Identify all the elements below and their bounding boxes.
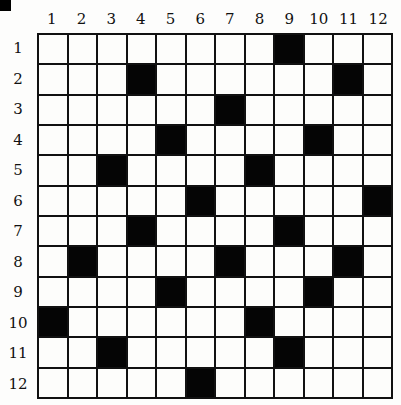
- grid-cell-empty[interactable]: [98, 126, 126, 154]
- grid-cell-empty[interactable]: [128, 187, 156, 215]
- grid-cell-filled[interactable]: [216, 247, 244, 275]
- grid-cell-empty[interactable]: [275, 65, 303, 93]
- grid-cell-empty[interactable]: [187, 65, 215, 93]
- grid-cell-empty[interactable]: [216, 126, 244, 154]
- grid-cell-empty[interactable]: [216, 156, 244, 184]
- grid-cell-empty[interactable]: [69, 35, 97, 63]
- grid-cell-empty[interactable]: [275, 96, 303, 124]
- grid-cell-empty[interactable]: [334, 338, 362, 366]
- grid-cell-empty[interactable]: [364, 65, 392, 93]
- grid-cell-empty[interactable]: [128, 35, 156, 63]
- grid-cell-empty[interactable]: [39, 278, 67, 306]
- grid-cell-empty[interactable]: [364, 308, 392, 336]
- grid-cell-filled[interactable]: [98, 338, 126, 366]
- grid-cell-filled[interactable]: [157, 278, 185, 306]
- grid-cell-filled[interactable]: [187, 187, 215, 215]
- grid-cell-empty[interactable]: [69, 369, 97, 397]
- grid-cell-empty[interactable]: [216, 65, 244, 93]
- grid-cell-filled[interactable]: [305, 126, 333, 154]
- grid-cell-empty[interactable]: [334, 217, 362, 245]
- grid-cell-empty[interactable]: [246, 338, 274, 366]
- grid-cell-empty[interactable]: [157, 338, 185, 366]
- grid-cell-filled[interactable]: [98, 156, 126, 184]
- grid-cell-empty[interactable]: [39, 156, 67, 184]
- grid-cell-empty[interactable]: [364, 247, 392, 275]
- grid-cell-empty[interactable]: [69, 187, 97, 215]
- grid-cell-empty[interactable]: [246, 217, 274, 245]
- grid-cell-empty[interactable]: [69, 338, 97, 366]
- grid-cell-empty[interactable]: [187, 156, 215, 184]
- grid-cell-empty[interactable]: [128, 126, 156, 154]
- grid-cell-empty[interactable]: [305, 156, 333, 184]
- grid-cell-empty[interactable]: [275, 126, 303, 154]
- grid-cell-empty[interactable]: [275, 369, 303, 397]
- grid-cell-filled[interactable]: [69, 247, 97, 275]
- grid-cell-empty[interactable]: [128, 247, 156, 275]
- grid-cell-empty[interactable]: [305, 369, 333, 397]
- grid-cell-filled[interactable]: [157, 126, 185, 154]
- grid-cell-empty[interactable]: [305, 338, 333, 366]
- grid-cell-empty[interactable]: [334, 278, 362, 306]
- grid-cell-empty[interactable]: [305, 217, 333, 245]
- grid-cell-empty[interactable]: [39, 369, 67, 397]
- grid-cell-empty[interactable]: [364, 338, 392, 366]
- grid-cell-empty[interactable]: [187, 35, 215, 63]
- grid-cell-empty[interactable]: [216, 369, 244, 397]
- grid-cell-empty[interactable]: [157, 247, 185, 275]
- grid-cell-empty[interactable]: [246, 187, 274, 215]
- grid-cell-filled[interactable]: [334, 247, 362, 275]
- grid-cell-filled[interactable]: [275, 217, 303, 245]
- grid-cell-empty[interactable]: [128, 96, 156, 124]
- grid-cell-empty[interactable]: [98, 96, 126, 124]
- grid-cell-empty[interactable]: [305, 308, 333, 336]
- grid-cell-empty[interactable]: [98, 247, 126, 275]
- grid-cell-empty[interactable]: [305, 247, 333, 275]
- grid-cell-empty[interactable]: [246, 35, 274, 63]
- grid-cell-empty[interactable]: [128, 369, 156, 397]
- grid-cell-empty[interactable]: [364, 96, 392, 124]
- grid-cell-empty[interactable]: [39, 338, 67, 366]
- grid-cell-empty[interactable]: [69, 308, 97, 336]
- grid-cell-filled[interactable]: [305, 278, 333, 306]
- grid-cell-empty[interactable]: [334, 156, 362, 184]
- grid-cell-empty[interactable]: [334, 96, 362, 124]
- grid-cell-filled[interactable]: [128, 217, 156, 245]
- grid-cell-filled[interactable]: [128, 65, 156, 93]
- grid-cell-empty[interactable]: [157, 35, 185, 63]
- grid-cell-empty[interactable]: [39, 126, 67, 154]
- grid-cell-empty[interactable]: [246, 65, 274, 93]
- grid-cell-filled[interactable]: [275, 35, 303, 63]
- grid-cell-empty[interactable]: [187, 247, 215, 275]
- grid-cell-empty[interactable]: [246, 369, 274, 397]
- grid-cell-empty[interactable]: [98, 278, 126, 306]
- grid-cell-empty[interactable]: [216, 35, 244, 63]
- grid-cell-empty[interactable]: [187, 308, 215, 336]
- grid-cell-empty[interactable]: [69, 217, 97, 245]
- grid-cell-empty[interactable]: [157, 96, 185, 124]
- grid-cell-filled[interactable]: [275, 338, 303, 366]
- grid-cell-empty[interactable]: [246, 96, 274, 124]
- grid-cell-empty[interactable]: [128, 278, 156, 306]
- grid-cell-empty[interactable]: [128, 156, 156, 184]
- grid-cell-empty[interactable]: [334, 308, 362, 336]
- grid-cell-empty[interactable]: [157, 217, 185, 245]
- grid-cell-empty[interactable]: [364, 369, 392, 397]
- grid-cell-empty[interactable]: [157, 187, 185, 215]
- grid-cell-empty[interactable]: [187, 217, 215, 245]
- grid-cell-empty[interactable]: [187, 278, 215, 306]
- grid-cell-empty[interactable]: [39, 35, 67, 63]
- grid-cell-empty[interactable]: [246, 278, 274, 306]
- grid-cell-empty[interactable]: [275, 187, 303, 215]
- grid-cell-empty[interactable]: [275, 308, 303, 336]
- grid-cell-empty[interactable]: [157, 65, 185, 93]
- grid-cell-empty[interactable]: [98, 217, 126, 245]
- grid-cell-filled[interactable]: [246, 156, 274, 184]
- grid-cell-empty[interactable]: [39, 96, 67, 124]
- grid-cell-empty[interactable]: [39, 247, 67, 275]
- grid-cell-filled[interactable]: [246, 308, 274, 336]
- grid-cell-empty[interactable]: [275, 156, 303, 184]
- grid-cell-empty[interactable]: [364, 35, 392, 63]
- grid-cell-empty[interactable]: [246, 126, 274, 154]
- grid-cell-empty[interactable]: [216, 338, 244, 366]
- grid-cell-empty[interactable]: [69, 126, 97, 154]
